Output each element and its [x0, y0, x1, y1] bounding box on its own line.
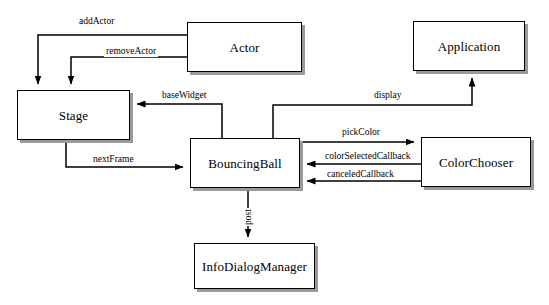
node-label-application: Application — [438, 40, 500, 53]
node-colorchooser[interactable]: ColorChooser — [421, 137, 531, 187]
edge-label-add-actor: addActor — [77, 17, 116, 27]
node-label-colorchooser: ColorChooser — [439, 156, 513, 169]
edge-remove-actor — [71, 57, 187, 84]
node-label-actor: Actor — [229, 41, 259, 54]
node-actor[interactable]: Actor — [187, 22, 302, 72]
node-infodialogmanager[interactable]: InfoDialogManager — [194, 243, 315, 289]
node-stage[interactable]: Stage — [17, 90, 130, 140]
node-label-infodialogmanager: InfoDialogManager — [202, 260, 307, 273]
node-application[interactable]: Application — [413, 21, 525, 71]
edge-label-color-selected-callback: colorSelectedCallback — [323, 152, 412, 162]
edge-label-next-frame: nextFrame — [91, 155, 136, 165]
edge-label-base-widget: baseWidget — [160, 91, 208, 101]
edge-add-actor — [38, 35, 187, 84]
edge-label-post: post — [244, 208, 254, 226]
edge-base-widget — [137, 104, 222, 138]
edge-label-display: display — [372, 91, 403, 101]
edge-label-remove-actor: removeActor — [104, 47, 158, 57]
node-bouncingball[interactable]: BouncingBall — [190, 138, 300, 188]
node-label-stage: Stage — [59, 109, 88, 122]
node-label-bouncingball: BouncingBall — [208, 157, 281, 170]
edge-label-canceled-callback: canceledCallback — [325, 170, 396, 180]
edge-label-pick-color: pickColor — [340, 128, 382, 138]
diagram-canvas: Actor Application Stage BouncingBall Col… — [0, 0, 549, 305]
